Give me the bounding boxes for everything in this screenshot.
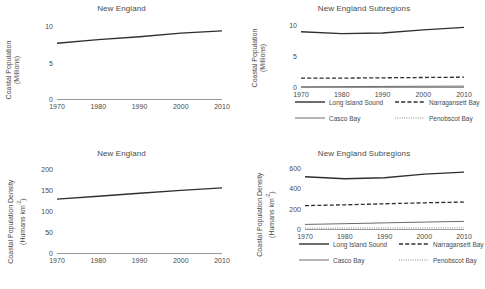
x-tick-label: 1970 bbox=[287, 91, 315, 98]
legend-label: Long Island Sound bbox=[333, 241, 387, 248]
plot-area bbox=[57, 20, 222, 100]
y-axis-label: Coastal Population (Millions) bbox=[5, 34, 21, 106]
y-tick-label: 400 bbox=[281, 185, 301, 192]
plot-area bbox=[57, 164, 222, 254]
legend-item: Long Island Sound bbox=[299, 240, 387, 248]
plot-area bbox=[301, 20, 464, 88]
x-tick-label: 2000 bbox=[409, 91, 437, 98]
y-tick-label: 200 bbox=[281, 206, 301, 213]
x-tick-label: 1990 bbox=[126, 103, 154, 110]
legend-label: Narragansett Bay bbox=[433, 241, 484, 248]
y-tick-label: 600 bbox=[281, 165, 301, 172]
y-tick-label: 0 bbox=[277, 84, 297, 91]
series-layer bbox=[305, 164, 464, 230]
panel-title: New England bbox=[0, 4, 243, 13]
x-tick-label: 2010 bbox=[208, 257, 236, 264]
y-axis-label: Coastal Population Density (Humans km-2) bbox=[7, 174, 26, 270]
y-tick-label: 0 bbox=[33, 250, 53, 257]
x-tick-label: 2000 bbox=[410, 233, 438, 240]
y-tick-label: 200 bbox=[33, 166, 53, 173]
x-tick-label: 2000 bbox=[167, 103, 195, 110]
x-tick-label: 1970 bbox=[43, 103, 71, 110]
legend-item: Narragansett Bay bbox=[399, 240, 484, 248]
y-tick-label: 0 bbox=[33, 96, 53, 103]
series-line bbox=[305, 202, 464, 206]
legend-swatch-solid-thin-icon bbox=[295, 114, 325, 122]
legend-swatch-solid-thin-icon bbox=[299, 256, 329, 264]
x-tick-label: 1980 bbox=[84, 257, 112, 264]
legend-item: Penobscot Bay bbox=[399, 256, 477, 264]
panel-title: New England Subregions bbox=[243, 4, 485, 13]
y-tick-label: 10 bbox=[33, 23, 53, 30]
legend-item: Casco Bay bbox=[295, 114, 360, 122]
x-tick-label: 2010 bbox=[208, 103, 236, 110]
series-line bbox=[305, 172, 464, 179]
x-tick-label: 2000 bbox=[167, 257, 195, 264]
y-tick-label: 5 bbox=[277, 53, 297, 60]
panel-title: New England Subregions bbox=[243, 149, 485, 158]
legend-item: Penobscot Bay bbox=[395, 114, 473, 122]
series-layer bbox=[57, 20, 222, 100]
x-tick-label: 1980 bbox=[331, 233, 359, 240]
panel-top-right: New England Subregions Coastal Populatio… bbox=[243, 0, 485, 145]
y-axis-label: Coastal Population Density (Humans km-2) bbox=[256, 167, 275, 263]
y-axis-label-units: (Humans km-2) bbox=[15, 174, 26, 270]
series-line bbox=[301, 86, 464, 87]
series-layer bbox=[301, 20, 464, 88]
plot-area bbox=[305, 164, 464, 230]
legend-label: Penobscot Bay bbox=[433, 257, 477, 264]
y-tick-label: 10 bbox=[277, 22, 297, 29]
y-axis-label-units: (Humans km-2) bbox=[264, 167, 275, 263]
x-tick-label: 2010 bbox=[450, 233, 478, 240]
panel-title: New England bbox=[0, 149, 243, 158]
panel-top-left: New England Coastal Population (Millions… bbox=[0, 0, 243, 145]
series-line bbox=[301, 27, 464, 33]
legend-label: Penobscot Bay bbox=[429, 115, 473, 122]
legend-swatch-solid-thick-icon bbox=[295, 98, 325, 106]
legend-label: Casco Bay bbox=[333, 257, 364, 264]
y-tick-label: 5 bbox=[33, 60, 53, 67]
panel-bottom-right: New England Subregions Coastal Populatio… bbox=[243, 145, 485, 289]
legend-item: Long Island Sound bbox=[295, 98, 383, 106]
legend-item: Narragansett Bay bbox=[395, 98, 480, 106]
y-axis-label: Coastal Population (Millions) bbox=[251, 22, 267, 94]
series-layer bbox=[57, 164, 222, 254]
x-tick-label: 1980 bbox=[84, 103, 112, 110]
series-line bbox=[57, 31, 222, 43]
figure-root: New England Coastal Population (Millions… bbox=[0, 0, 485, 289]
x-tick-label: 1990 bbox=[369, 91, 397, 98]
legend: Long Island SoundNarragansett BayCasco B… bbox=[299, 240, 485, 270]
panel-bottom-left: New England Coastal Population Density (… bbox=[0, 145, 243, 289]
x-tick-label: 1970 bbox=[291, 233, 319, 240]
x-tick-label: 2010 bbox=[450, 91, 478, 98]
x-tick-label: 1990 bbox=[371, 233, 399, 240]
legend-swatch-solid-thick-icon bbox=[299, 240, 329, 248]
legend-item: Casco Bay bbox=[299, 256, 364, 264]
legend-label: Narragansett Bay bbox=[429, 99, 480, 106]
legend-swatch-dotted-icon bbox=[399, 256, 429, 264]
legend-swatch-dashed-icon bbox=[399, 240, 429, 248]
legend-swatch-dotted-icon bbox=[395, 114, 425, 122]
y-tick-label: 100 bbox=[33, 208, 53, 215]
x-tick-label: 1990 bbox=[126, 257, 154, 264]
y-tick-label: 150 bbox=[33, 187, 53, 194]
series-line bbox=[301, 77, 464, 78]
series-line bbox=[305, 221, 464, 224]
legend-label: Long Island Sound bbox=[329, 99, 383, 106]
y-tick-label: 50 bbox=[33, 229, 53, 236]
x-tick-label: 1970 bbox=[43, 257, 71, 264]
y-tick-label: 0 bbox=[281, 226, 301, 233]
legend: Long Island SoundNarragansett BayCasco B… bbox=[295, 98, 485, 128]
series-line bbox=[57, 188, 222, 199]
legend-label: Casco Bay bbox=[329, 115, 360, 122]
legend-swatch-dashed-icon bbox=[395, 98, 425, 106]
x-tick-label: 1980 bbox=[328, 91, 356, 98]
